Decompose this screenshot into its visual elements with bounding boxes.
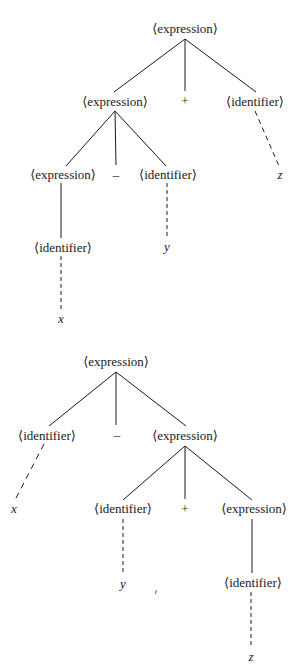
node-minus-operator: – (113, 168, 120, 181)
node-expression: ⟨expression⟩ (30, 168, 96, 181)
edge (116, 372, 186, 426)
edge (114, 39, 185, 92)
node-identifier: ⟨identifier⟩ (226, 95, 284, 108)
edge (115, 111, 116, 165)
edge (115, 111, 166, 166)
node-identifier: ⟨identifier⟩ (224, 576, 282, 589)
leaf-y: y (120, 577, 126, 590)
node-plus-operator: + (181, 502, 188, 515)
node-identifier: ⟨identifier⟩ (94, 502, 152, 515)
leaf-z: z (277, 168, 282, 181)
node-identifier: ⟨identifier⟩ (18, 429, 76, 442)
edge (123, 446, 185, 500)
node-identifier: ⟨identifier⟩ (34, 241, 92, 254)
leaf-z: z (248, 650, 253, 663)
dashed-edge (15, 444, 44, 500)
dashed-edge (255, 111, 279, 166)
edge (49, 372, 116, 426)
edge (185, 446, 252, 500)
node-identifier: ⟨identifier⟩ (139, 168, 197, 181)
edge (185, 39, 256, 92)
node-expression-root: ⟨expression⟩ (152, 22, 218, 35)
node-expression-root: ⟨expression⟩ (83, 355, 149, 368)
edge (66, 111, 115, 166)
node-plus-operator: + (181, 94, 188, 107)
node-expression: ⟨expression⟩ (152, 429, 218, 442)
leaf-x: x (11, 502, 17, 515)
leaf-y: y (164, 240, 170, 253)
node-expression: ⟨expression⟩ (82, 95, 148, 108)
node-minus-operator: – (114, 428, 121, 441)
leaf-x: x (58, 312, 64, 325)
node-expression: ⟨expression⟩ (221, 502, 287, 515)
